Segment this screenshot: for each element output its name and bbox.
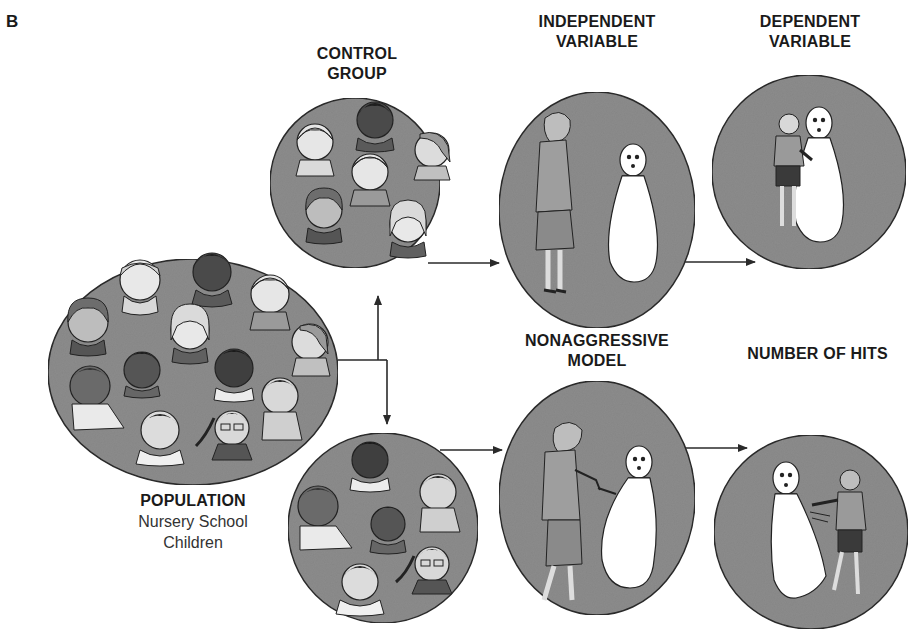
population-subtitle-line2: Children: [108, 532, 278, 553]
dependent-variable-scene: [712, 75, 906, 269]
population-subtitle: Nursery School Children: [108, 511, 278, 553]
population-subtitle-line1: Nursery School: [108, 511, 278, 532]
nonaggressive-model-title-line1: NONAGGRESSIVE: [497, 331, 697, 351]
nonaggressive-model-scene: [499, 381, 695, 615]
child-face-icon: [350, 442, 390, 492]
independent-variable-title-line2: VARIABLE: [497, 32, 697, 52]
independent-variable-scene: [499, 92, 695, 328]
child-face-icon: [120, 260, 160, 315]
child-face-icon: [171, 304, 209, 364]
child-face-icon: [306, 188, 342, 244]
nonaggressive-model-title: NONAGGRESSIVE MODEL: [497, 331, 697, 371]
child-face-icon: [292, 324, 330, 376]
dependent-variable-title-line2: VARIABLE: [715, 32, 905, 52]
dependent-variable-title: DEPENDENT VARIABLE: [715, 12, 905, 52]
control-group-title: CONTROL GROUP: [287, 44, 427, 84]
number-of-hits-title: NUMBER OF HITS: [735, 344, 900, 364]
population-title: POPULATION: [118, 491, 268, 511]
dependent-variable-title-line1: DEPENDENT: [715, 12, 905, 32]
child-face-icon: [192, 253, 232, 307]
child-face-icon: [370, 507, 406, 554]
control-group-circle: [270, 98, 450, 268]
independent-variable-title-line1: INDEPENDENT: [497, 12, 697, 32]
child-face-icon: [356, 102, 394, 152]
independent-variable-title: INDEPENDENT VARIABLE: [497, 12, 697, 52]
number-of-hits-scene: [714, 435, 908, 629]
nonaggressive-model-title-line2: MODEL: [497, 351, 697, 371]
child-face-icon: [124, 352, 160, 398]
child-face-icon: [350, 154, 390, 206]
child-face-icon: [250, 275, 290, 330]
child-face-icon: [214, 349, 254, 402]
experimental-group-circle: [288, 433, 478, 623]
child-face-icon: [390, 200, 426, 258]
population-group: [48, 253, 338, 485]
child-face-icon: [68, 298, 108, 356]
child-face-icon: [296, 124, 334, 176]
child-face-icon: [414, 133, 450, 181]
